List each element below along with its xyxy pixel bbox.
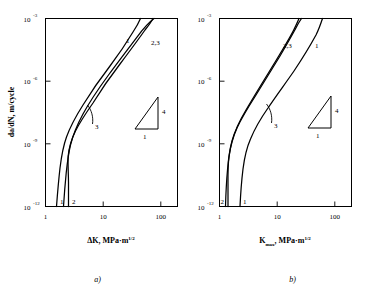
panel-b: 10 -3 10 -6 10 -9 10 -12 1 10 100 Kmax, … — [195, 0, 390, 288]
y-tick-exponent: -12 — [207, 201, 214, 206]
x-axis-label-text: ΔK, MPa·m — [87, 236, 128, 245]
curve-label-2-bottom-a: 2 — [72, 198, 76, 206]
y-tick-exponent: -3 — [33, 13, 38, 18]
y-tick-exponent: -3 — [207, 13, 212, 18]
curve-series-3-a — [64, 19, 155, 207]
x-axis-ticks-b — [220, 202, 335, 207]
x-tick-label: 1 — [44, 213, 48, 221]
x-tick-label: 10 — [274, 213, 282, 221]
x-axis-label-exponent: 1/2 — [304, 236, 311, 241]
panel-caption-a: a) — [0, 275, 195, 284]
chart-a-svg: 10 -3 10 -6 10 -9 10 -12 1 10 100 ΔK, MP… — [0, 0, 195, 270]
x-tick-label: 10 — [100, 213, 108, 221]
curve-label-1-bottom-b: 1 — [243, 198, 247, 206]
y-tick-label: 10 — [198, 78, 206, 86]
curve-label-23-a: 2,3 — [151, 39, 160, 47]
y-tick-label: 10 — [24, 141, 32, 149]
y-tick-exponent: -9 — [207, 138, 212, 143]
figure-fatigue-crack-growth: 10 -3 10 -6 10 -9 10 -12 1 10 100 ΔK, MP… — [0, 0, 390, 288]
x-tick-label: 100 — [156, 213, 167, 221]
y-tick-label: 10 — [24, 78, 32, 86]
panel-caption-b: b) — [195, 275, 390, 284]
x-tick-label-group-b: 1 10 100 — [218, 213, 341, 221]
x-axis-label-unit: , MPa·m — [275, 236, 305, 245]
curve-label-1-b: 1 — [315, 42, 319, 50]
x-tick-label: 100 — [330, 213, 341, 221]
x-tick-label: 1 — [218, 213, 222, 221]
x-tick-label-group-a: 1 10 100 — [44, 213, 167, 221]
y-tick-label: 10 — [24, 204, 32, 212]
y-tick-label-group-a: 10 -3 10 -6 10 -9 10 -12 — [24, 13, 41, 212]
slope-triangle-run-label-b: 1 — [316, 132, 320, 140]
y-axis-ticks-a — [46, 19, 51, 207]
slope-triangle-rise-label-a: 4 — [162, 108, 166, 116]
y-tick-exponent: -12 — [33, 201, 40, 206]
curve-label-3-b: 3 — [274, 122, 278, 130]
slope-triangle-b: 4 1 — [308, 96, 339, 140]
curve-label-1-a: 1 — [126, 37, 130, 45]
slope-triangle-run-label-a: 1 — [143, 133, 147, 141]
y-tick-exponent: -9 — [33, 138, 38, 143]
y-axis-label-a: da/dN, m/cycle — [7, 86, 16, 137]
chart-b-svg: 10 -3 10 -6 10 -9 10 -12 1 10 100 Kmax, … — [195, 0, 390, 270]
curve-series-1-b — [240, 19, 323, 207]
y-tick-exponent: -6 — [33, 76, 38, 81]
y-tick-label: 10 — [24, 16, 32, 24]
curve-series-2-a — [68, 19, 153, 207]
x-axis-label-a: ΔK, MPa·m1/2 — [87, 236, 135, 246]
curve-series-1-a — [57, 19, 141, 207]
slope-triangle-rise-label-b: 4 — [335, 107, 339, 115]
curve-label-1-bottom-a: 1 — [60, 198, 64, 206]
x-axis-label-b: Kmax, MPa·m1/2 — [259, 236, 311, 247]
x-axis-label-exponent: 1/2 — [128, 236, 135, 241]
y-tick-label: 10 — [198, 204, 206, 212]
slope-triangle-a: 4 1 — [135, 97, 166, 141]
curve-label-2-bottom-b: 2 — [221, 198, 225, 206]
y-tick-label: 10 — [198, 141, 206, 149]
curve-label-3-a: 3 — [95, 123, 99, 131]
y-tick-exponent: -6 — [207, 76, 212, 81]
panel-a: 10 -3 10 -6 10 -9 10 -12 1 10 100 ΔK, MP… — [0, 0, 195, 288]
y-tick-label: 10 — [198, 16, 206, 24]
y-tick-label-group-b: 10 -3 10 -6 10 -9 10 -12 — [198, 13, 215, 212]
y-axis-ticks-b — [220, 19, 225, 207]
curve-label-23-b: 2,3 — [283, 42, 292, 50]
